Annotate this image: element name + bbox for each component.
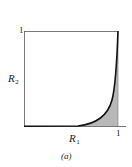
curve <box>24 31 118 126</box>
y-axis-label-text: R <box>8 72 15 84</box>
x-axis-max-tick: 1 <box>116 129 121 138</box>
y-axis-max-tick: 1 <box>19 26 24 35</box>
x-axis-label-text: R <box>69 132 76 144</box>
x-axis-label: R1 <box>69 133 80 146</box>
x-axis-label-sub: 1 <box>76 138 80 146</box>
shaded-area <box>78 31 118 126</box>
y-axis-label-sub: 2 <box>15 78 19 86</box>
figure-caption: (a) <box>61 152 72 161</box>
y-axis-label: R2 <box>8 73 19 86</box>
